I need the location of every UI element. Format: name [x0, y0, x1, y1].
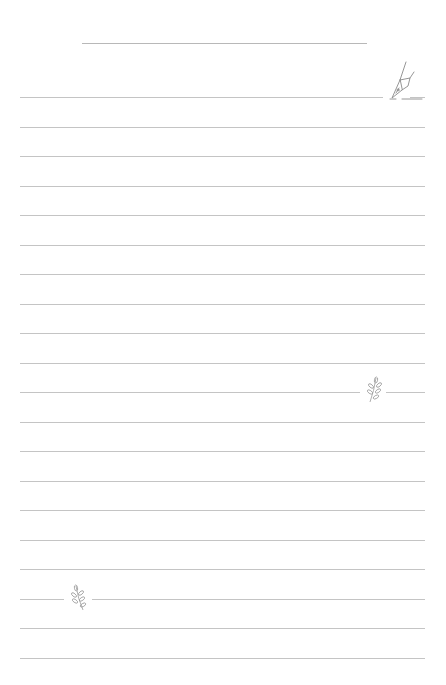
ruled-line	[20, 363, 425, 364]
ruled-line	[20, 127, 425, 128]
ruled-line	[92, 599, 425, 600]
leaf-sprig-icon	[364, 376, 384, 404]
title-line	[82, 43, 367, 44]
ruled-line	[20, 304, 425, 305]
ruled-line	[20, 481, 425, 482]
ruled-line	[20, 510, 425, 511]
ruled-line	[20, 392, 360, 393]
ruled-line	[20, 422, 425, 423]
ruled-line	[20, 599, 64, 600]
ruled-line	[20, 658, 425, 659]
ruled-line	[20, 451, 425, 452]
ruled-line	[20, 628, 425, 629]
ruled-line	[386, 392, 425, 393]
fountain-pen-icon	[388, 60, 424, 102]
leaf-sprig-icon	[69, 584, 89, 612]
ruled-line	[20, 245, 425, 246]
ruled-line	[20, 97, 383, 98]
ruled-line	[20, 569, 425, 570]
ruled-line	[20, 156, 425, 157]
ruled-line	[20, 274, 425, 275]
ruled-line	[20, 186, 425, 187]
ruled-line	[20, 215, 425, 216]
ruled-line	[20, 333, 425, 334]
ruled-line	[20, 540, 425, 541]
